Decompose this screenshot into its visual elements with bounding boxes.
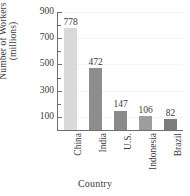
x-axis-category-text: Brazil [174,133,184,156]
y-axis-title-line2: (millions) [8,22,18,60]
bar: 106 [139,116,152,130]
x-axis-category-text: China [74,133,84,156]
y-axis-title-line1: Number of Workers [0,2,8,79]
y-axis-tick-label: 700 [40,33,54,43]
bar: 82 [164,119,177,130]
y-axis-title: Number of Workers (millions) [0,0,23,101]
bar: 147 [114,111,127,130]
y-axis-tick-label: 500 [40,60,54,70]
bar-series: 77847214710682 [58,12,183,130]
y-axis-tick-label: 100 [40,112,54,122]
bar-value-label: 778 [63,18,77,28]
bar: 778 [64,28,77,130]
y-axis-tick-label: 900 [40,7,54,17]
bar: 472 [89,68,102,130]
x-axis-category-text: India [99,133,109,153]
plot-area: 100300500700900 77847214710682 ChinaIndi… [57,12,183,131]
bar-value-label: 147 [113,100,127,110]
bar-value-label: 106 [138,106,152,116]
x-axis-title: Country [0,178,190,189]
bar-chart: Number of Workers (millions) 10030050070… [0,0,190,196]
x-axis-line [57,130,183,131]
x-axis-category-text: U.S. [124,133,134,150]
x-axis-category-text: Indonesia [149,133,159,170]
y-axis-tick-label: 300 [40,86,54,96]
bar-value-label: 82 [166,109,176,119]
bar-value-label: 472 [88,58,102,68]
